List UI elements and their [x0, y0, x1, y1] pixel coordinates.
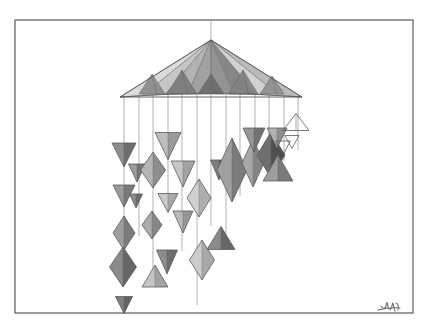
mobile-drawing — [0, 0, 430, 334]
artwork-canvas — [0, 0, 430, 334]
